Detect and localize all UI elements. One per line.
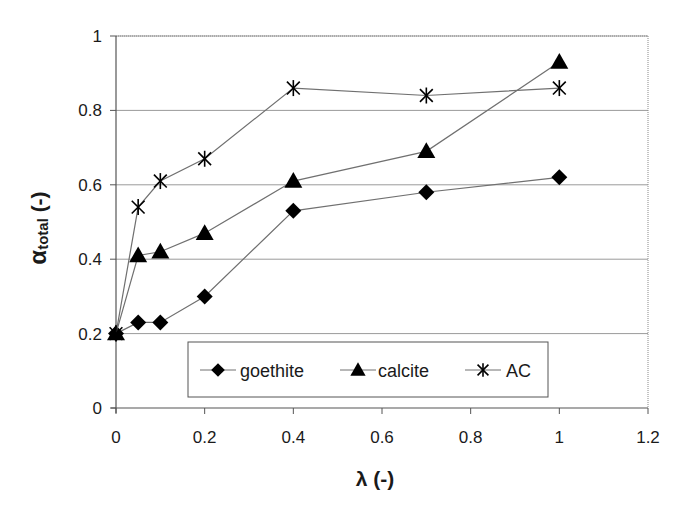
- y-axis-title-suffix: (-): [27, 191, 50, 218]
- asterisk-marker-icon: [132, 199, 145, 215]
- y-tick-label: 0.6: [78, 176, 102, 195]
- x-tick-label: 0.2: [193, 428, 217, 447]
- legend: goethitecalciteAC: [188, 342, 548, 397]
- y-tick-label: 1: [93, 27, 102, 46]
- series-line: [116, 62, 559, 334]
- y-tick-label: 0.2: [78, 325, 102, 344]
- asterisk-marker-icon: [154, 173, 167, 189]
- y-axis-ticks: 00.20.40.60.81: [78, 27, 116, 418]
- gridlines: [116, 36, 648, 334]
- x-tick-label: 0: [111, 428, 120, 447]
- x-tick-label: 1: [555, 428, 564, 447]
- chart: 00.20.40.60.811.2 00.20.40.60.81 λ (-) α…: [0, 0, 695, 518]
- asterisk-marker-icon: [198, 151, 211, 167]
- x-tick-label: 0.4: [282, 428, 306, 447]
- y-axis-title: αtotal (-): [24, 191, 51, 264]
- legend-label: calcite: [378, 361, 429, 381]
- x-tick-label: 1.2: [636, 428, 660, 447]
- triangle-marker-icon: [151, 243, 169, 259]
- diamond-marker-icon: [152, 314, 168, 330]
- x-axis-title: λ (-): [356, 467, 395, 490]
- legend-label: AC: [506, 361, 531, 381]
- x-tick-label: 0.8: [459, 428, 483, 447]
- series-calcite: [107, 53, 568, 340]
- triangle-marker-icon: [550, 53, 568, 69]
- series-line: [116, 88, 559, 334]
- triangle-marker-icon: [196, 224, 214, 240]
- diamond-marker-icon: [418, 184, 434, 200]
- legend-label: goethite: [240, 361, 304, 381]
- triangle-marker-icon: [417, 142, 435, 158]
- diamond-marker-icon: [130, 314, 146, 330]
- diamond-marker-icon: [551, 169, 567, 185]
- y-axis-title-subscript: total: [34, 218, 51, 250]
- series-line: [116, 177, 559, 333]
- y-tick-label: 0.4: [78, 250, 102, 269]
- y-axis-title-main: α: [24, 250, 51, 265]
- series-ac: [110, 80, 566, 342]
- x-axis-ticks: 00.20.40.60.811.2: [111, 408, 660, 447]
- y-tick-label: 0.8: [78, 101, 102, 120]
- svg-text:αtotal (-): αtotal (-): [24, 191, 51, 264]
- series-goethite: [108, 169, 567, 341]
- x-tick-label: 0.6: [370, 428, 394, 447]
- y-tick-label: 0: [93, 399, 102, 418]
- data-series: [107, 53, 568, 342]
